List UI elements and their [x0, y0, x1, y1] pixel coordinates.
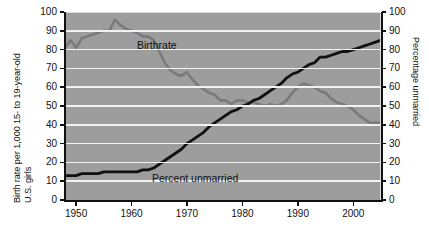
- y-axis-right-tick-label: 30: [389, 138, 415, 149]
- y-axis-left-tick-mark: [60, 143, 64, 145]
- y-axis-left-tick-label: 50: [33, 100, 57, 111]
- y-axis-right-tick-mark: [382, 68, 386, 70]
- x-axis-tick-mark: [242, 201, 244, 206]
- y-axis-left-spine: [64, 12, 66, 202]
- y-axis-left-tick-label: 30: [33, 138, 57, 149]
- y-axis-right-tick-label: 0: [389, 194, 415, 205]
- series-label-birthrate: Birthrate: [137, 39, 177, 51]
- y-axis-left-tick-label: 40: [33, 119, 57, 130]
- gridline: [65, 68, 381, 70]
- gridline: [65, 49, 381, 51]
- y-axis-left-title-line2: U.S. girls: [23, 167, 33, 203]
- gridline: [65, 162, 381, 164]
- y-axis-right-tick-label: 50: [389, 100, 415, 111]
- x-axis-tick-mark: [131, 201, 133, 206]
- x-axis-tick-mark: [186, 201, 188, 206]
- y-axis-right-tick-mark: [382, 105, 386, 107]
- gridline: [65, 30, 381, 32]
- y-axis-left-tick-mark: [60, 124, 64, 126]
- y-axis-left-tick-mark: [60, 11, 64, 13]
- line-birthrate: [65, 20, 381, 123]
- x-axis-tick-label: 1990: [278, 208, 318, 219]
- y-axis-right-tick-mark: [382, 180, 386, 182]
- y-axis-left-tick-label: 80: [33, 44, 57, 55]
- y-axis-left-tick-label: 100: [33, 6, 57, 17]
- gridline: [65, 143, 381, 145]
- y-axis-right-tick-label: 10: [389, 175, 415, 186]
- gridline: [65, 105, 381, 107]
- y-axis-right-tick-label: 100: [389, 6, 415, 17]
- y-axis-right-tick-label: 70: [389, 62, 415, 73]
- y-axis-right-tick-mark: [382, 124, 386, 126]
- y-axis-left-tick-label: 0: [33, 194, 57, 205]
- y-axis-left-tick-mark: [60, 162, 64, 164]
- y-axis-right-tick-label: 80: [389, 44, 415, 55]
- y-axis-right-tick-mark: [382, 11, 386, 13]
- y-axis-left-tick-mark: [60, 105, 64, 107]
- gridline: [65, 124, 381, 126]
- y-axis-left-tick-label: 10: [33, 175, 57, 186]
- y-axis-right-tick-mark: [382, 162, 386, 164]
- y-axis-right-tick-label: 40: [389, 119, 415, 130]
- y-axis-right-tick-mark: [382, 49, 386, 51]
- y-axis-left-tick-label: 60: [33, 81, 57, 92]
- x-axis-spine: [64, 200, 382, 202]
- y-axis-left-tick-mark: [60, 199, 64, 201]
- plot-border-top: [65, 12, 381, 13]
- x-axis-tick-mark: [75, 201, 77, 206]
- y-axis-right-tick-label: 20: [389, 156, 415, 167]
- y-axis-right-tick-mark: [382, 86, 386, 88]
- y-axis-left-tick-mark: [60, 86, 64, 88]
- x-axis-tick-label: 1950: [56, 208, 96, 219]
- y-axis-left-tick-mark: [60, 68, 64, 70]
- x-axis-tick-label: 1970: [167, 208, 207, 219]
- y-axis-left-tick-mark: [60, 180, 64, 182]
- y-axis-left-tick-mark: [60, 49, 64, 51]
- x-axis-tick-mark: [353, 201, 355, 206]
- x-axis-tick-label: 2000: [333, 208, 373, 219]
- y-axis-right-tick-label: 90: [389, 25, 415, 36]
- line-percent-unmarried: [65, 40, 381, 175]
- y-axis-right-tick-mark: [382, 143, 386, 145]
- y-axis-left-tick-mark: [60, 30, 64, 32]
- y-axis-right-tick-mark: [382, 199, 386, 201]
- y-axis-left-tick-label: 70: [33, 62, 57, 73]
- x-axis-tick-mark: [297, 201, 299, 206]
- gridline: [65, 86, 381, 88]
- chart-figure: Birth rate per 1,000 15- to 19-year-old …: [0, 0, 429, 240]
- series-label-percent-unmarried: Percent unmarried: [152, 172, 238, 184]
- y-axis-left-tick-label: 90: [33, 25, 57, 36]
- x-axis-tick-label: 1980: [222, 208, 262, 219]
- x-axis-tick-label: 1960: [112, 208, 152, 219]
- y-axis-right-tick-mark: [382, 30, 386, 32]
- y-axis-right-tick-label: 60: [389, 81, 415, 92]
- y-axis-right-spine: [381, 12, 383, 202]
- y-axis-left-title-line1: Birth rate per 1,000 15- to 19-year-old: [12, 53, 22, 203]
- y-axis-left-tick-label: 20: [33, 156, 57, 167]
